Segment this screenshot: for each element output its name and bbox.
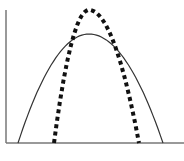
dotted-curve [54, 10, 139, 143]
chart [0, 0, 184, 161]
solid-curve [18, 34, 163, 143]
